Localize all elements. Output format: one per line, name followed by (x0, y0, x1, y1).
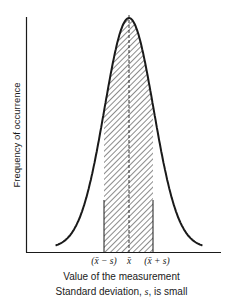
normal-distribution-chart (0, 0, 231, 300)
caption-suffix: , is small (148, 286, 187, 297)
tick-mean: x̄ (127, 256, 131, 266)
x-axis-label: Value of the measurement (0, 271, 231, 282)
caption-prefix: Standard deviation, (56, 286, 145, 297)
y-axis-label-text: Frequency of occurrence (11, 82, 22, 187)
tick-mean-minus-s: (x̄ − s) (91, 256, 116, 266)
chart-caption: Standard deviation, s, is small (0, 286, 231, 297)
tick-mean-plus-s: (x̄ + s) (144, 256, 169, 266)
